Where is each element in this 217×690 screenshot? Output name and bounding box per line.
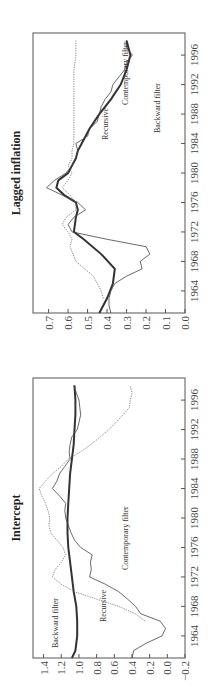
y-tick-label: 0.6 — [62, 316, 74, 330]
label-recursive: Recursive — [101, 108, 110, 140]
x-tick-label: 1976 — [188, 191, 200, 214]
x-tick-label: 1972 — [188, 566, 200, 588]
y-tick-label: 0.8 — [91, 661, 103, 675]
y-tick-label: 0.2 — [140, 316, 152, 330]
series-recursive — [39, 385, 145, 621]
y-tick-label: 0.6 — [108, 661, 120, 675]
chart-title: Intercept — [9, 494, 23, 541]
y-tick-label: 0.4 — [126, 661, 138, 675]
x-tick-label: 1984 — [188, 477, 200, 500]
lagged-inflation-chart: Lagged inflation 19641968197219761980198… — [0, 0, 217, 345]
y-tick-label: 0.4 — [101, 316, 113, 330]
y-tick-label: 0.0 — [179, 316, 191, 330]
y-tick-label: 0.5 — [82, 316, 94, 330]
lagged-inflation-panel: Lagged inflation 19641968197219761980198… — [0, 0, 217, 345]
series-backward-filter — [68, 385, 78, 658]
x-tick-label: 1972 — [188, 221, 200, 243]
label-contemporary: Contemporary filter — [121, 41, 130, 105]
chart-title: Lagged inflation — [9, 131, 23, 216]
x-tick-label: 1964 — [188, 279, 200, 302]
plot-frame — [33, 33, 185, 313]
x-tick-label: 1996 — [188, 389, 200, 412]
label-recursive: Recursive — [99, 590, 108, 622]
y-tick-label: 1.0 — [73, 661, 85, 675]
y-tick-label: 0.7 — [43, 316, 55, 330]
series-recursive — [62, 40, 103, 298]
y-tick-label: 0.1 — [160, 316, 172, 330]
x-tick-label: 1988 — [188, 448, 200, 471]
series-backward-filter — [56, 40, 130, 313]
x-tick-label: 1968 — [188, 250, 200, 273]
x-tick-label: 1980 — [188, 507, 200, 530]
y-tick-label: −0.2 — [179, 661, 191, 681]
label-backward: Backward filter — [51, 598, 60, 648]
y-tick-label: 0.0 — [161, 661, 173, 675]
x-tick-label: 1996 — [188, 44, 200, 67]
y-tick-label: 1.4 — [38, 661, 50, 675]
x-tick-label: 1968 — [188, 595, 200, 618]
intercept-chart: Intercept 196419681972197619801984198819… — [0, 345, 217, 690]
y-tick-label: 0.3 — [121, 316, 133, 330]
x-tick-label: 1988 — [188, 103, 200, 126]
plot-area — [47, 40, 150, 313]
series-contemporary-filter — [52, 385, 165, 658]
y-tick-label: 0.2 — [144, 661, 156, 675]
intercept-panel: Intercept 196419681972197619801984198819… — [0, 345, 217, 690]
x-tick-label: 1992 — [188, 419, 200, 441]
label-contemporary: Contemporary filter — [121, 506, 130, 570]
x-tick-label: 1984 — [188, 132, 200, 155]
x-tick-label: 1980 — [188, 162, 200, 185]
label-backward: Backward filter — [153, 83, 162, 133]
y-tick-label: 1.2 — [55, 661, 67, 675]
x-tick-label: 1992 — [188, 74, 200, 96]
x-tick-label: 1964 — [188, 624, 200, 647]
x-tick-label: 1976 — [188, 536, 200, 559]
